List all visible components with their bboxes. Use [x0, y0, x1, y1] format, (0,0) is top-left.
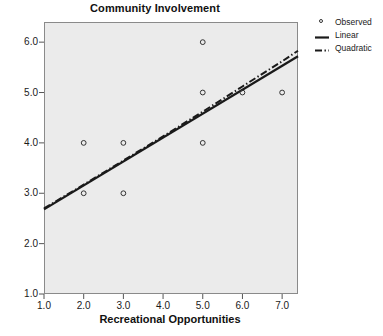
- fit-lines: [44, 51, 298, 210]
- data-point: [121, 191, 126, 196]
- x-axis-title: Recreational Opportunities: [20, 313, 320, 325]
- x-tick-label: 5.0: [188, 300, 218, 311]
- legend-label-quadratic: Quadratic: [332, 43, 372, 53]
- y-tick-label: 4.0: [4, 137, 38, 148]
- x-tick-label: 3.0: [108, 300, 138, 311]
- data-point: [200, 90, 205, 95]
- y-tick-label: 1.0: [4, 288, 38, 299]
- data-points: [81, 40, 284, 196]
- y-tick-label: 5.0: [4, 87, 38, 98]
- solid-line-icon: [314, 29, 332, 40]
- scatter-chart: Community Involvement 1.02.03.04.05.06.0…: [0, 0, 383, 336]
- y-tick-label: 3.0: [4, 187, 38, 198]
- open-circle-icon: [314, 16, 332, 27]
- tick-marks: [39, 42, 282, 299]
- data-point: [200, 140, 205, 145]
- data-point: [200, 40, 205, 45]
- y-tick-label: 2.0: [4, 238, 38, 249]
- x-tick-label: 1.0: [29, 300, 59, 311]
- x-tick-label: 4.0: [148, 300, 178, 311]
- dash-dot-line-icon: [314, 42, 332, 53]
- x-tick-label: 2.0: [69, 300, 99, 311]
- legend-item-linear: Linear: [314, 29, 383, 40]
- legend-item-quadratic: Quadratic: [314, 42, 383, 53]
- x-tick-label: 7.0: [267, 300, 297, 311]
- y-tick-label: 6.0: [4, 36, 38, 47]
- legend-label-observed: Observed: [332, 17, 372, 27]
- legend-item-observed: Observed: [314, 16, 383, 27]
- data-point: [121, 140, 126, 145]
- fit-line-quadratic: [44, 51, 298, 209]
- legend-label-linear: Linear: [332, 30, 359, 40]
- data-point: [81, 140, 86, 145]
- data-point: [280, 90, 285, 95]
- chart-legend: Observed Linear Quadratic: [314, 16, 383, 55]
- data-point: [81, 191, 86, 196]
- x-tick-label: 6.0: [227, 300, 257, 311]
